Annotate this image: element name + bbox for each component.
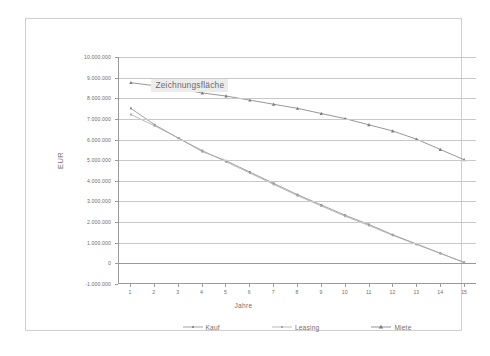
legend-item-leasing: Leasing xyxy=(272,323,320,331)
gridline xyxy=(119,222,476,223)
gridline xyxy=(119,201,476,202)
x-tick-mark xyxy=(202,284,203,287)
data-point-marker xyxy=(249,172,251,174)
y-tick-mark xyxy=(115,181,118,182)
y-tick-mark xyxy=(115,263,118,264)
gridline xyxy=(119,119,476,120)
x-tick-label: 6 xyxy=(248,289,251,295)
gridline xyxy=(119,181,476,182)
data-point-marker xyxy=(130,107,132,109)
x-tick-label: 8 xyxy=(296,289,299,295)
gridline xyxy=(119,140,476,141)
series-line xyxy=(131,83,464,160)
data-point-marker xyxy=(201,149,203,151)
plot-area-tooltip: Zeichnungsfläche xyxy=(151,79,228,92)
data-point-marker xyxy=(368,224,370,226)
y-tick-label: 4.000.000 xyxy=(87,178,111,184)
x-tick-mark xyxy=(345,284,346,287)
x-tick-label: 1 xyxy=(128,289,131,295)
y-tick-mark xyxy=(115,201,118,202)
legend-label: Miete xyxy=(394,324,411,331)
x-tick-label: 12 xyxy=(390,289,396,295)
legend-marker-icon xyxy=(272,323,292,331)
series-line xyxy=(131,115,464,263)
y-tick-mark xyxy=(115,57,118,58)
legend-marker-icon xyxy=(183,323,203,331)
x-tick-label: 2 xyxy=(152,289,155,295)
x-tick-mark xyxy=(178,284,179,287)
chart-frame: EUR 10.000.0009.000.0008.000.0007.000.00… xyxy=(25,18,462,331)
gridline xyxy=(119,98,476,99)
x-tick-label: 3 xyxy=(176,289,179,295)
x-tick-mark xyxy=(321,284,322,287)
gridline xyxy=(119,160,476,161)
legend-label: Kauf xyxy=(206,324,220,331)
y-tick-mark xyxy=(115,160,118,161)
x-tick-mark xyxy=(416,284,417,287)
x-tick-label: 14 xyxy=(437,289,443,295)
y-tick-mark xyxy=(115,78,118,79)
y-tick-mark xyxy=(115,119,118,120)
y-tick-mark xyxy=(115,140,118,141)
x-tick-label: 15 xyxy=(461,289,467,295)
x-tick-label: 4 xyxy=(200,289,203,295)
y-tick-mark xyxy=(115,222,118,223)
x-tick-mark xyxy=(440,284,441,287)
x-tick-label: 10 xyxy=(342,289,348,295)
data-point-marker xyxy=(130,114,132,116)
x-tick-label: 7 xyxy=(272,289,275,295)
y-tick-label: 7.000.000 xyxy=(87,116,111,122)
x-axis-title: Jahre xyxy=(26,302,461,309)
x-tick-mark xyxy=(225,284,226,287)
series-line xyxy=(131,108,464,262)
series-leasing xyxy=(130,114,465,264)
y-tick-mark xyxy=(115,243,118,244)
y-tick-label: -1.000.000 xyxy=(85,281,111,287)
x-tick-mark xyxy=(297,284,298,287)
data-point-marker xyxy=(392,234,394,236)
series-miete xyxy=(129,81,466,161)
data-point-marker xyxy=(439,252,441,254)
y-tick-label: 2.000.000 xyxy=(87,219,111,225)
x-tick-mark xyxy=(464,284,465,287)
y-tick-label: 5.000.000 xyxy=(87,157,111,163)
x-tick-label: 11 xyxy=(366,289,371,295)
x-tick-mark xyxy=(249,284,250,287)
x-tick-label: 5 xyxy=(224,289,227,295)
legend-label: Leasing xyxy=(295,324,320,331)
y-axis-title: EUR xyxy=(56,152,65,169)
gridline xyxy=(119,263,476,264)
x-tick-mark xyxy=(392,284,393,287)
x-tick-label: 9 xyxy=(319,289,322,295)
y-tick-mark xyxy=(115,98,118,99)
y-tick-label: 10.000.000 xyxy=(84,54,111,60)
y-tick-label: 6.000.000 xyxy=(87,137,111,143)
chart-legend: KaufLeasingMiete xyxy=(118,319,476,335)
data-point-marker xyxy=(273,183,275,185)
data-point-marker xyxy=(344,215,346,217)
y-tick-mark xyxy=(115,284,118,285)
x-tick-mark xyxy=(273,284,274,287)
series-kauf xyxy=(130,107,465,263)
y-tick-label: 9.000.000 xyxy=(87,75,111,81)
legend-item-kauf: Kauf xyxy=(183,323,220,331)
data-point-marker xyxy=(154,125,156,127)
y-tick-label: 1.000.000 xyxy=(87,240,111,246)
chart-screenshot: EUR 10.000.0009.000.0008.000.0007.000.00… xyxy=(0,0,490,356)
x-tick-mark xyxy=(154,284,155,287)
gridline xyxy=(119,243,476,244)
y-tick-label: 0 xyxy=(108,260,111,266)
data-point-marker xyxy=(297,195,299,197)
x-tick-label: 13 xyxy=(413,289,419,295)
y-tick-label: 3.000.000 xyxy=(87,198,111,204)
data-point-marker xyxy=(320,205,322,207)
y-tick-label: 8.000.000 xyxy=(87,95,111,101)
legend-item-miete: Miete xyxy=(371,323,411,331)
x-tick-mark xyxy=(369,284,370,287)
gridline xyxy=(119,57,476,58)
x-tick-mark xyxy=(130,284,131,287)
legend-marker-icon xyxy=(371,323,391,331)
